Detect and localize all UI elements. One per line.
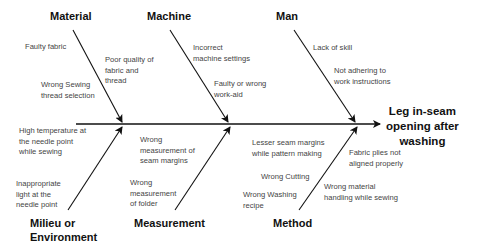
cause-wrong-cutting: Wrong Cutting (261, 172, 309, 183)
cause-high-temperature: High temperature at the needle point whi… (19, 126, 86, 158)
cause-lack-of-skill: Lack of skill (313, 43, 352, 54)
category-machine: Machine (147, 9, 191, 23)
cause-machine-settings: Incorrect machine settings (193, 43, 250, 64)
cause-wrong-material-handling: Wrong material handling while sewing (324, 182, 398, 203)
cause-poor-quality: Poor quality of fabric and thread (105, 55, 154, 87)
cause-folder-measurement: Wrong measurement of folder (130, 178, 176, 210)
category-measurement: Measurement (134, 216, 205, 230)
category-man: Man (276, 9, 298, 23)
category-material: Material (50, 9, 92, 23)
cause-work-instructions: Not adhering to work instructions (334, 66, 391, 87)
cause-inappropriate-light: Inappropriate light at the needle point (16, 179, 61, 211)
cause-fabric-plies: Fabric plies not aligned properly (349, 148, 403, 169)
category-method: Method (273, 216, 312, 230)
cause-faulty-fabric: Faulty fabric (25, 42, 66, 53)
cause-work-aid: Faulty or wrong work-aid (214, 79, 266, 100)
effect-label: Leg in-seam opening after washing (386, 104, 459, 149)
cause-seam-margin-measurement: Wrong measurement of seam margins (140, 135, 195, 167)
cause-lesser-seam-margins: Lesser seam margins while pattern making (252, 138, 325, 159)
cause-wrong-thread: Wrong Sewing thread selection (41, 80, 95, 101)
category-milieu: Milieu or Environment (30, 216, 97, 244)
cause-wrong-washing-recipe: Wrong Washing recipe (243, 190, 297, 211)
